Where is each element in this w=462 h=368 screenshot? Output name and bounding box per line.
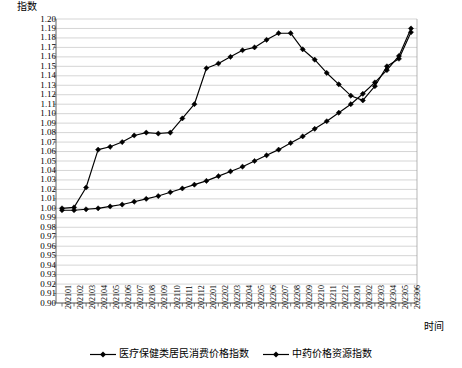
x-tick-label: 202304 (390, 285, 398, 309)
x-tick-label: 202106 (125, 285, 133, 309)
legend-label: 中药价格资源指数 (292, 349, 372, 359)
x-tick-label: 202306 (414, 285, 422, 309)
x-tick-label: 202101 (65, 285, 73, 309)
legend-marker-1 (263, 350, 289, 359)
legend-item-0[interactable]: 医疗保健类居民消费价格指数 (90, 349, 249, 359)
x-axis-tick-labels: 2021012021022021032021042021052021062021… (0, 0, 462, 368)
x-tick-label: 202206 (270, 285, 278, 309)
x-tick-label: 202111 (186, 286, 194, 309)
x-tick-label: 202203 (234, 285, 242, 309)
x-tick-label: 202212 (342, 285, 350, 309)
x-tick-label: 202108 (149, 285, 157, 309)
x-tick-label: 202105 (113, 285, 121, 309)
x-tick-label: 202102 (77, 285, 85, 309)
chart-legend: 医疗保健类居民消费价格指数中药价格资源指数 (0, 345, 462, 363)
x-tick-label: 202110 (174, 285, 182, 309)
x-tick-label: 202202 (222, 285, 230, 309)
x-tick-label: 202107 (137, 285, 145, 309)
x-tick-label: 202104 (101, 285, 109, 309)
legend-label: 医疗保健类居民消费价格指数 (119, 349, 249, 359)
x-tick-label: 202303 (378, 285, 386, 309)
x-tick-label: 202302 (366, 285, 374, 309)
x-tick-label: 202205 (258, 285, 266, 309)
x-tick-label: 202209 (306, 285, 314, 309)
x-tick-label: 202103 (89, 285, 97, 309)
legend-item-1[interactable]: 中药价格资源指数 (263, 349, 372, 359)
x-tick-label: 202109 (161, 285, 169, 309)
x-tick-label: 202207 (282, 285, 290, 309)
legend-marker-0 (90, 350, 116, 359)
x-tick-label: 202305 (402, 285, 410, 309)
x-tick-label: 202211 (330, 285, 338, 309)
x-tick-label: 202112 (198, 285, 206, 309)
x-tick-label: 202210 (318, 285, 326, 309)
x-tick-label: 202201 (210, 285, 218, 309)
x-tick-label: 202301 (354, 285, 362, 309)
x-tick-label: 202208 (294, 285, 302, 309)
x-tick-label: 202204 (246, 285, 254, 309)
chart-container: 指数 时间 1.201.191.181.171.161.151.141.131.… (0, 0, 462, 368)
